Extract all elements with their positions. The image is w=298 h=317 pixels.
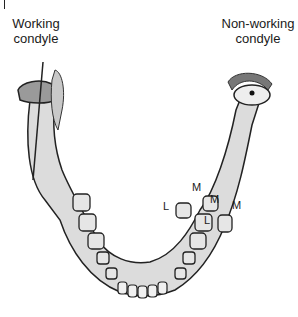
label-m-top: M [192,181,201,193]
mandible-drawing [0,0,298,317]
working-condyle-shape [18,81,56,103]
mandible-outline [28,91,260,296]
rotation-center-dot [250,91,255,96]
label-m-inner: M [210,193,219,205]
label-l-left: L [163,200,169,212]
label-m-right: M [232,199,241,211]
label-l-inner: L [204,214,210,226]
